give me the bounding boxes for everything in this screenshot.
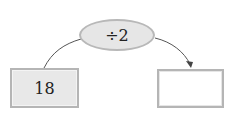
- operation-oval: ÷2: [79, 19, 155, 51]
- output-connector: [155, 38, 190, 64]
- output-box[interactable]: [157, 69, 224, 108]
- input-connector: [44, 39, 81, 68]
- input-value: 18: [34, 79, 54, 98]
- input-box: 18: [10, 68, 79, 108]
- arrowhead-icon: [186, 61, 193, 68]
- operation-label: ÷2: [105, 26, 129, 45]
